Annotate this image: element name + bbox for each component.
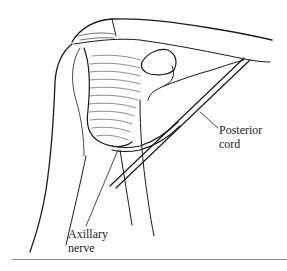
posterior-cord (110, 58, 244, 186)
acromion-outline (72, 19, 272, 42)
glenoid-outline (84, 48, 132, 147)
axillary-nerve-label-line2: nerve (68, 241, 108, 255)
posterior-cord-label: Posterior cord (219, 123, 262, 151)
coracoid-outline (141, 50, 176, 75)
axillary-nerve-label: Axillary nerve (68, 227, 108, 255)
posterior-cord-label-line1: Posterior (219, 123, 262, 137)
axillary-nerve (112, 122, 178, 148)
posterior-cord-leader (200, 112, 218, 128)
bottom-divider (12, 259, 287, 260)
posterior-cord-label-line2: cord (219, 137, 262, 151)
humeral-head-outline (30, 44, 72, 252)
axillary-nerve-leader (86, 150, 118, 226)
axillary-nerve-label-line1: Axillary (68, 227, 108, 241)
